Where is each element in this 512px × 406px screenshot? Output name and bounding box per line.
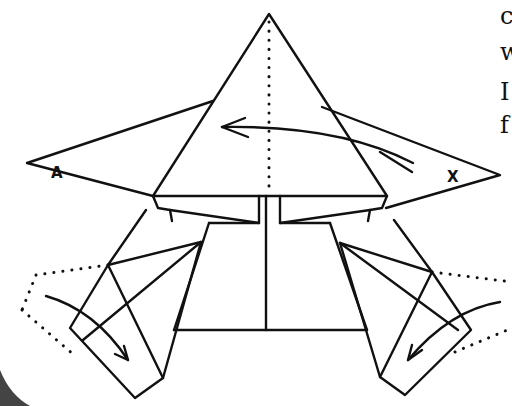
top-arrow-fold-left [222, 118, 413, 163]
right-leg [340, 220, 512, 395]
flap-label-a: A [51, 164, 63, 182]
corner-shadow [0, 370, 30, 406]
edge-text-fragment: I [500, 80, 512, 104]
edge-text-fragment: w [500, 40, 512, 64]
origami-diagram: A X [0, 0, 512, 406]
edge-text-fragment: f [500, 113, 512, 137]
left-wing-flap: A [27, 101, 213, 196]
flap-label-x: X [447, 168, 459, 186]
right-wing-flap: X [322, 107, 500, 208]
left-leg [22, 210, 201, 398]
center-body [170, 196, 370, 330]
edge-text-fragment: c [500, 4, 512, 28]
